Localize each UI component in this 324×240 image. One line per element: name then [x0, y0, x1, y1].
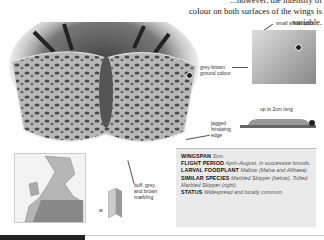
label-jagged-line3: edge — [211, 132, 231, 138]
female-marker-icon — [186, 72, 193, 79]
male-marker-icon — [295, 44, 302, 51]
similar-species-row: SIMILAR SPECIES Marbled Skipper (below),… — [181, 175, 311, 189]
status-row: STATUS Widespread and locally common. — [181, 189, 311, 196]
side-view-photo — [252, 30, 316, 84]
flight-period-row: FLIGHT PERIOD April–August, in successiv… — [181, 160, 311, 167]
label-small-white-spots: small white spots — [276, 20, 314, 26]
label-marbling: buff, grey, and brown marbling — [134, 182, 157, 200]
book-icon — [108, 188, 122, 218]
label-caterpillar-length: up to 2cm long — [260, 106, 293, 112]
label-grey-brown: grey-brown ground colour — [200, 64, 231, 76]
caterpillar-photo — [240, 116, 316, 130]
wingspan-row: WINGSPAN 3cm. — [181, 153, 311, 160]
moth-photo — [4, 22, 200, 162]
species-info-box: WINGSPAN 3cm. FLIGHT PERIOD April–August… — [176, 148, 316, 227]
flight-symbol-icon: ʍ — [99, 207, 103, 213]
distribution-map — [14, 153, 86, 223]
larval-foodplant-row: LARVAL FOODPLANT Mallow (Malva and Altha… — [181, 167, 311, 174]
bottom-photo-strip — [0, 233, 324, 240]
label-jagged-edge: jagged hindwing edge — [211, 120, 231, 138]
label-grey-brown-line2: ground colour — [200, 70, 231, 76]
label-marbling-line3: marbling — [134, 194, 157, 200]
